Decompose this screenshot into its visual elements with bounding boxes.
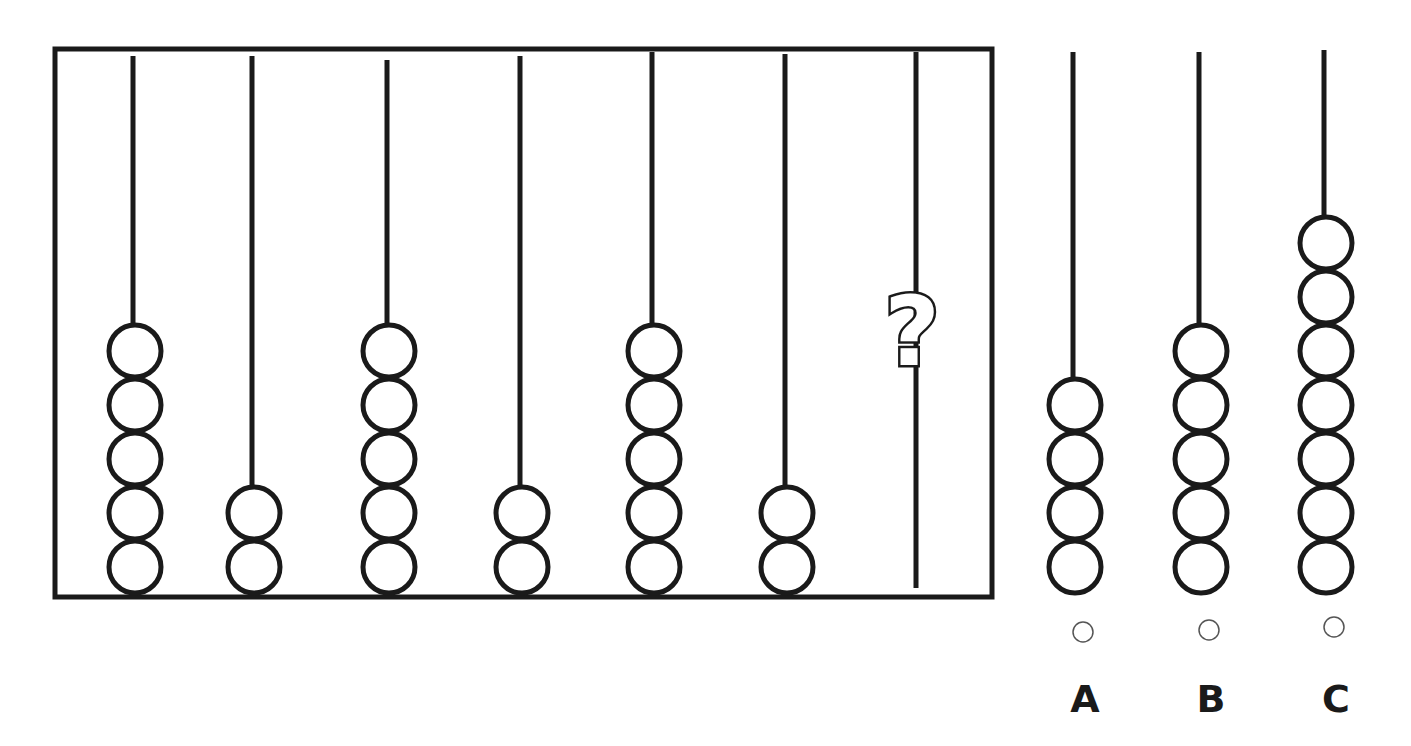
bead	[1049, 541, 1101, 593]
rod-1	[109, 56, 161, 593]
rod-3	[363, 60, 415, 593]
option-a[interactable]: A	[1049, 52, 1101, 721]
bead	[496, 541, 548, 593]
bead	[363, 487, 415, 539]
bead	[1300, 379, 1352, 431]
bead	[1175, 487, 1227, 539]
radio-button-c[interactable]	[1324, 617, 1344, 637]
bead	[628, 433, 680, 485]
option-label: A	[1070, 677, 1100, 721]
bead	[1175, 433, 1227, 485]
option-label: C	[1322, 677, 1350, 721]
option-c-rod	[1300, 50, 1352, 593]
bead	[1300, 271, 1352, 323]
abacus-puzzle: ? ABC	[0, 0, 1411, 746]
bead	[363, 541, 415, 593]
bead	[109, 541, 161, 593]
bead	[228, 487, 280, 539]
bead	[228, 541, 280, 593]
bead	[1175, 325, 1227, 377]
bead	[363, 325, 415, 377]
option-b[interactable]: B	[1175, 52, 1227, 721]
rod-5	[628, 52, 680, 593]
bead	[761, 487, 813, 539]
bead	[1300, 217, 1352, 269]
rod-2	[228, 56, 280, 593]
question-mark-icon: ?	[884, 276, 940, 388]
bead	[1049, 487, 1101, 539]
bead	[628, 487, 680, 539]
bead	[628, 379, 680, 431]
bead	[1049, 433, 1101, 485]
rod-6	[761, 54, 813, 593]
option-c[interactable]: C	[1300, 50, 1352, 721]
option-a-rod	[1049, 52, 1101, 593]
bead	[109, 379, 161, 431]
bead	[363, 433, 415, 485]
bead	[109, 433, 161, 485]
rod-4	[496, 56, 548, 593]
bead	[761, 541, 813, 593]
answer-options: ABC	[1049, 50, 1352, 721]
bead	[628, 325, 680, 377]
radio-button-a[interactable]	[1073, 622, 1093, 642]
bead	[1049, 379, 1101, 431]
question-mark: ?	[884, 276, 940, 388]
abacus-rods	[109, 52, 916, 593]
bead	[628, 541, 680, 593]
radio-button-b[interactable]	[1199, 620, 1219, 640]
bead	[1300, 541, 1352, 593]
bead	[496, 487, 548, 539]
bead	[1300, 433, 1352, 485]
bead	[363, 379, 415, 431]
bead	[1300, 325, 1352, 377]
bead	[1175, 541, 1227, 593]
bead	[109, 487, 161, 539]
option-b-rod	[1175, 52, 1227, 593]
bead	[109, 325, 161, 377]
bead	[1300, 487, 1352, 539]
bead	[1175, 379, 1227, 431]
option-label: B	[1197, 677, 1226, 721]
